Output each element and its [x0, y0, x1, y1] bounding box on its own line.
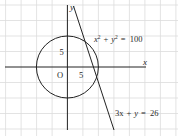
x-axis-label: x — [142, 57, 147, 67]
eq-sup-2: 2 — [115, 34, 118, 40]
y-tick-label-5: 5 — [60, 47, 64, 57]
line-equation-label: 3x+y=26 — [115, 108, 158, 118]
eq-rhs: 100 — [130, 34, 143, 44]
eq-line-y: y — [133, 108, 138, 118]
eq-sup-1: 2 — [98, 34, 101, 40]
svg-text:3x+y=26: 3x+y=26 — [115, 108, 158, 118]
eq-line-rhs: 26 — [150, 108, 159, 118]
x-tick-label-5: 5 — [79, 70, 83, 80]
origin-label: O — [57, 70, 63, 80]
eq-line-3x: 3x — [115, 108, 124, 118]
circle-line-diagram: y x O 5 5 x2+y2=100 3x+y=26 — [0, 0, 178, 136]
circle-equation-label: x2+y2=100 — [93, 34, 142, 44]
svg-text:x2+y2=100: x2+y2=100 — [93, 34, 142, 44]
y-axis-label: y — [69, 2, 74, 12]
line-3x-plus-y-26 — [74, 6, 115, 130]
